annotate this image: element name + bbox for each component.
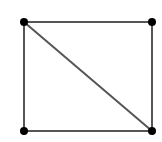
edges: [24, 22, 152, 131]
vertex-v1: [20, 18, 28, 26]
graph-diagram: [0, 0, 162, 142]
vertex-v4: [148, 127, 156, 135]
edge-v1-v4: [24, 22, 152, 131]
vertex-v2: [148, 18, 156, 26]
vertex-v3: [20, 127, 28, 135]
